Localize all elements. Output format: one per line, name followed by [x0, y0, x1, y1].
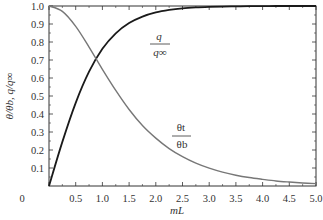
y-tick-label: 0.5: [31, 91, 44, 102]
x-axis-ticks: 00.51.01.52.02.53.03.54.04.55.0: [19, 6, 322, 204]
y-tick-label: 0.8: [31, 37, 44, 48]
curve-labels: q q∞ θt θb: [150, 30, 191, 150]
y-axis-label: θ/θb, q/q∞: [3, 72, 15, 119]
x-tick-label: 4.5: [283, 193, 296, 204]
y-tick-label: 1.0: [31, 1, 44, 12]
x-axis-label: mL: [170, 204, 184, 216]
x-tick-label: 0.5: [69, 193, 82, 204]
x-tick-label: 5.0: [309, 193, 322, 204]
q-label-numerator: q: [156, 30, 162, 42]
q-ratio-curve: [49, 6, 316, 186]
y-tick-label: 0.2: [31, 145, 44, 156]
y-tick-label: 0.9: [31, 19, 44, 30]
y-tick-label: 0.7: [31, 55, 44, 66]
theta-ratio-curve: [49, 6, 316, 184]
x-tick-label: 1.5: [123, 193, 136, 204]
theta-label-denominator: θb: [177, 138, 188, 150]
curves: [49, 6, 316, 186]
q-curve-label: q q∞: [150, 30, 170, 58]
y-tick-label: 0.6: [31, 73, 44, 84]
theta-curve-label: θt θb: [172, 121, 191, 150]
x-tick-label: 3.5: [229, 193, 242, 204]
x-tick-label: 0: [19, 193, 24, 204]
x-tick-label: 1.0: [96, 193, 109, 204]
x-tick-label: 3.0: [203, 193, 216, 204]
y-tick-label: 0.3: [31, 127, 44, 138]
plot-frame: [49, 6, 316, 186]
x-tick-label: 4.0: [256, 193, 269, 204]
y-tick-label: 0.1: [31, 163, 44, 174]
chart: 0.10.20.30.40.50.60.70.80.91.0 00.51.01.…: [0, 0, 323, 220]
q-label-denominator: q∞: [153, 46, 167, 58]
theta-label-numerator: θt: [177, 121, 185, 133]
x-tick-label: 2.5: [176, 193, 189, 204]
y-tick-label: 0.4: [31, 109, 45, 120]
x-tick-label: 2.0: [149, 193, 162, 204]
